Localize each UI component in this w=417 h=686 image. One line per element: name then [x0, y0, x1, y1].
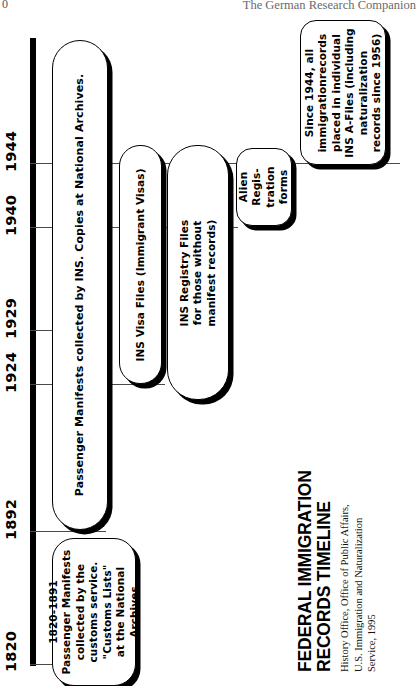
year-label-1929: 1929 — [3, 298, 19, 339]
title-credit-line-3: Service, 1995 — [365, 522, 378, 672]
year-label-1940: 1940 — [3, 195, 19, 236]
year-label-1892: 1892 — [3, 499, 19, 540]
timeline-box-ins-a-files[interactable]: Since 1944, allimmigrationrecordsplaced … — [300, 20, 386, 165]
timeline-box-alien-registration-forms[interactable]: AlienRegis-trationforms — [236, 148, 292, 226]
title-line-2: RECORDS TIMELINE — [315, 522, 334, 672]
year-label-1820: 1820 — [3, 631, 19, 672]
timeline-axis — [30, 38, 36, 666]
year-label-1944: 1944 — [3, 131, 19, 172]
timeline-box-passenger-manifests-label: Passenger Manifests collected by INS. Co… — [73, 74, 87, 496]
year-label-1924: 1924 — [3, 352, 19, 393]
title-credit: History Office, Office of Public Affairs… — [338, 522, 378, 672]
timeline-box-ins-visa-files[interactable]: INS Visa Files (Immigrant Visas) — [119, 145, 162, 384]
timeline-box-passenger-manifests[interactable]: Passenger Manifests collected by INS. Co… — [52, 40, 108, 530]
title-block: FEDERAL IMMIGRATION RECORDS TIMELINE His… — [296, 522, 379, 672]
title-line-1: FEDERAL IMMIGRATION — [296, 522, 315, 672]
title-credit-line-2: U.S. Immigration and Naturalization — [352, 522, 365, 672]
running-head: The German Research Companion — [243, 0, 416, 13]
gridline-1892 — [30, 531, 106, 532]
timeline-box-ins-registry-files-label: INS Registry Filesfor those withoutmanif… — [178, 219, 218, 326]
timeline-box-ins-a-files-label: Since 1944, allimmigrationrecordsplaced … — [303, 28, 384, 157]
timeline-box-ins-registry-files[interactable]: INS Registry Filesfor those withoutmanif… — [167, 145, 229, 400]
title-credit-line-1: History Office, Office of Public Affairs… — [338, 522, 351, 672]
timeline-box-alien-registration-forms-label: AlienRegis-trationforms — [237, 166, 291, 207]
page-number: 0 — [2, 0, 8, 12]
timeline-box-customs-lists[interactable]: 1820-1891Passenger Manifestscollected by… — [52, 538, 136, 686]
timeline-box-customs-lists-label: 1820-1891Passenger Manifestscollected by… — [47, 550, 141, 675]
timeline-box-ins-visa-files-label: INS Visa Files (Immigrant Visas) — [134, 168, 147, 361]
